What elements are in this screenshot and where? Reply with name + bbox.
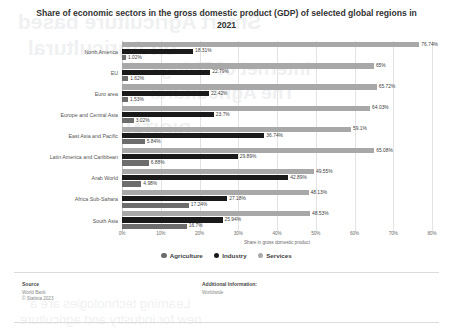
- bar-rows: North America76.74%18.31%1.02%EU65%22.79…: [22, 41, 432, 231]
- legend-swatch-icon: [214, 253, 220, 259]
- legend-label: Agriculture: [170, 252, 203, 259]
- value-label-services: 65.08%: [376, 148, 393, 153]
- bar-row: Arab World49.55%42.89%4.98%: [22, 168, 432, 190]
- value-label-industry: 18.31%: [195, 48, 212, 53]
- x-tick-label: 30%: [234, 231, 243, 236]
- value-label-agriculture: 3.02%: [136, 118, 150, 123]
- bar-industry[interactable]: [122, 154, 238, 159]
- bar-agriculture[interactable]: [122, 181, 141, 186]
- bar-agriculture[interactable]: [122, 97, 128, 102]
- value-label-industry: 22.42%: [211, 91, 228, 96]
- x-tick-label: 0%: [119, 231, 126, 236]
- bar-group: 59.1%36.74%5.84%: [122, 125, 432, 147]
- x-tick-label: 70%: [389, 231, 398, 236]
- bar-agriculture[interactable]: [122, 55, 126, 60]
- bar-agriculture[interactable]: [122, 76, 128, 81]
- bar-agriculture[interactable]: [122, 160, 149, 165]
- bar-industry[interactable]: [122, 133, 264, 138]
- bar-industry[interactable]: [122, 112, 214, 117]
- bar-services[interactable]: [122, 106, 370, 111]
- gridline: [432, 41, 433, 231]
- footer-copyright-line: © Statista 2023: [22, 296, 202, 303]
- bar-industry[interactable]: [122, 49, 193, 54]
- bar-agriculture[interactable]: [122, 118, 134, 123]
- bar-group: 65%22.79%1.62%: [122, 62, 432, 84]
- bar-services[interactable]: [122, 63, 374, 68]
- footer-info-line: Worldwide: [202, 290, 382, 297]
- x-axis-title: Share in gross domestic product: [122, 240, 432, 245]
- value-label-industry: 23.7%: [216, 112, 230, 117]
- value-label-services: 48.13%: [311, 190, 328, 195]
- x-tick-label: 50%: [311, 231, 320, 236]
- value-label-services: 49.55%: [316, 169, 333, 174]
- x-tick-label: 10%: [156, 231, 165, 236]
- category-label: Euro area: [22, 91, 118, 97]
- x-tick-label: 40%: [272, 231, 281, 236]
- x-tick-label: 80%: [427, 231, 436, 236]
- value-label-services: 64.03%: [372, 105, 389, 110]
- value-label-services: 59.1%: [353, 126, 367, 131]
- footer-source-column: Source World Bank © Statista 2023: [22, 281, 202, 303]
- legend-swatch-icon: [258, 253, 264, 259]
- category-label: Latin America and Caribbean: [22, 154, 118, 160]
- bar-industry[interactable]: [122, 217, 223, 222]
- bar-group: 65.08%29.89%6.88%: [122, 147, 432, 169]
- bar-row: Latin America and Caribbean65.08%29.89%6…: [22, 147, 432, 169]
- chart-footer: Source World Bank © Statista 2023 Additi…: [22, 281, 439, 303]
- bar-group: 48.53%25.94%16.7%: [122, 210, 432, 232]
- bar-industry[interactable]: [122, 70, 210, 75]
- bar-industry[interactable]: [122, 175, 288, 180]
- value-label-industry: 27.18%: [229, 196, 246, 201]
- footer-info-heading: Additional Information:: [202, 281, 382, 287]
- bar-services[interactable]: [122, 148, 374, 153]
- bar-row: East Asia and Pacific59.1%36.74%5.84%: [22, 125, 432, 147]
- bar-row: Africa Sub-Sahara48.13%27.18%17.24%: [22, 189, 432, 211]
- footer-info-column: Additional Information: Worldwide: [202, 281, 382, 303]
- value-label-industry: 42.89%: [290, 175, 307, 180]
- value-label-services: 65%: [376, 63, 386, 68]
- bar-group: 76.74%18.31%1.02%: [122, 41, 432, 63]
- bar-row: Europe and Central Asia64.03%23.7%3.02%: [22, 104, 432, 126]
- bar-services[interactable]: [122, 127, 351, 132]
- bar-row: North America76.74%18.31%1.02%: [22, 41, 432, 63]
- value-label-agriculture: 6.88%: [151, 160, 165, 165]
- value-label-industry: 29.89%: [240, 154, 257, 159]
- chart-legend: AgricultureIndustryServices: [0, 252, 453, 259]
- bar-group: 65.72%22.42%1.53%: [122, 83, 432, 105]
- bar-row: South Asia48.53%25.94%16.7%: [22, 210, 432, 232]
- legend-item-industry[interactable]: Industry: [214, 252, 247, 259]
- bar-agriculture[interactable]: [122, 139, 145, 144]
- bar-services[interactable]: [122, 84, 377, 89]
- legend-item-agriculture[interactable]: Agriculture: [161, 252, 203, 259]
- category-label: Arab World: [22, 175, 118, 181]
- value-label-services: 48.53%: [312, 211, 329, 216]
- chart-title: Share of economic sectors in the gross d…: [0, 0, 453, 31]
- bar-group: 64.03%23.7%3.02%: [122, 104, 432, 126]
- plot-area: North America76.74%18.31%1.02%EU65%22.79…: [22, 41, 432, 231]
- value-label-agriculture: 4.98%: [143, 181, 157, 186]
- legend-label: Services: [266, 252, 291, 259]
- x-tick-label: 20%: [195, 231, 204, 236]
- bar-agriculture[interactable]: [122, 203, 189, 208]
- bar-industry[interactable]: [122, 91, 209, 96]
- value-label-agriculture: 1.53%: [130, 97, 144, 102]
- footer-divider-top: [14, 272, 439, 273]
- value-label-industry: 25.94%: [225, 217, 242, 222]
- bar-agriculture[interactable]: [122, 224, 187, 229]
- bar-services[interactable]: [122, 190, 309, 195]
- value-label-agriculture: 1.62%: [130, 76, 144, 81]
- legend-item-services[interactable]: Services: [258, 252, 292, 259]
- footer-divider-bottom: [14, 322, 439, 323]
- bar-row: Euro area65.72%22.42%1.53%: [22, 83, 432, 105]
- category-label: Africa Sub-Sahara: [22, 196, 118, 202]
- value-label-industry: 22.79%: [212, 69, 229, 74]
- bar-row: EU65%22.79%1.62%: [22, 62, 432, 84]
- value-label-services: 65.72%: [379, 84, 396, 89]
- bar-services[interactable]: [122, 169, 314, 174]
- bar-services[interactable]: [122, 211, 310, 216]
- bar-industry[interactable]: [122, 196, 227, 201]
- category-label: South Asia: [22, 218, 118, 224]
- x-tick-label: 60%: [350, 231, 359, 236]
- bar-group: 49.55%42.89%4.98%: [122, 168, 432, 190]
- bar-services[interactable]: [122, 42, 419, 47]
